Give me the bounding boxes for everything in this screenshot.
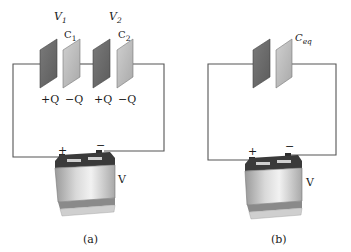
battery-positive-terminal-label: + <box>248 145 257 158</box>
series-capacitor-diagram: V1 V2 C1 +Q −Q C2 +Q −Q + − <box>0 0 351 252</box>
circuit-wire-a <box>13 64 164 157</box>
capacitor-label-ceq: Ceq <box>295 32 312 46</box>
battery-negative-terminal-label: − <box>285 140 294 153</box>
voltage-label-v2: V2 <box>109 10 122 25</box>
charge-label-plus: +Q <box>94 93 112 106</box>
voltage-label-v1: V1 <box>54 10 67 25</box>
panel-a: V1 V2 C1 +Q −Q C2 +Q −Q + − <box>13 10 164 246</box>
capacitor-ceq: Ceq <box>253 32 312 88</box>
capacitor-plate-positive <box>253 39 270 88</box>
battery-b: + − V <box>245 140 315 219</box>
capacitor-plate-negative <box>117 39 133 88</box>
capacitor-c2: C2 +Q −Q <box>93 29 136 106</box>
capacitor-plate-positive <box>40 39 57 88</box>
panel-b: Ceq + − V (b) <box>208 32 336 246</box>
charge-label-minus: −Q <box>118 93 136 106</box>
capacitor-label-c2: C2 <box>118 29 131 43</box>
capacitor-plate-positive <box>93 39 110 88</box>
charge-label-minus: −Q <box>65 93 83 106</box>
caption-a: (a) <box>83 233 98 246</box>
capacitor-label-c1: C1 <box>64 29 76 43</box>
battery-voltage-label: V <box>305 176 315 189</box>
charge-label-plus: +Q <box>41 93 59 106</box>
capacitor-c1: C1 +Q −Q <box>40 29 83 106</box>
battery-voltage-label: V <box>117 173 127 186</box>
capacitor-plate-negative <box>276 39 292 88</box>
capacitor-plate-negative <box>63 39 80 88</box>
caption-b: (b) <box>271 233 287 246</box>
circuit-wire-b <box>208 64 336 160</box>
